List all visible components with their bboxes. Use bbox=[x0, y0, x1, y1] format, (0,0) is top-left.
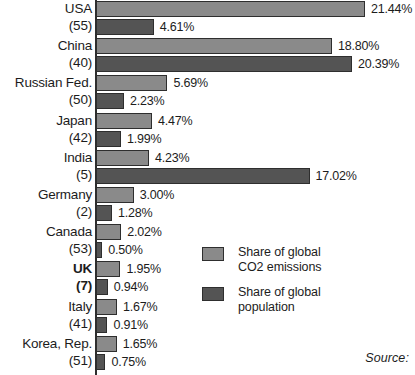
bar-co2-emissions bbox=[96, 75, 167, 91]
legend-label-line2: CO2 emissions bbox=[238, 260, 321, 275]
row-label: Russian Fed.(50) bbox=[0, 74, 92, 111]
country-name: UK bbox=[0, 260, 92, 277]
bar-value-population: 4.61% bbox=[160, 19, 194, 35]
legend-swatch-population bbox=[202, 287, 224, 301]
bar-value-co2: 1.67% bbox=[123, 299, 157, 315]
bar-value-co2: 2.02% bbox=[127, 224, 161, 240]
bar-population bbox=[96, 131, 121, 147]
legend-swatch-co2 bbox=[202, 247, 224, 261]
bar-population bbox=[96, 93, 124, 109]
legend-label: Share of globalpopulation bbox=[238, 285, 321, 315]
bar-population bbox=[96, 242, 102, 258]
legend-item: Share of globalpopulation bbox=[202, 285, 382, 325]
bar-population bbox=[96, 19, 154, 35]
chart-row: China(40)18.80%20.39% bbox=[0, 37, 415, 74]
legend-label: Share of globalCO2 emissions bbox=[238, 245, 321, 275]
bar-co2-emissions bbox=[96, 299, 117, 315]
bar-value-co2: 4.47% bbox=[158, 113, 192, 129]
bar-co2-emissions bbox=[96, 336, 117, 352]
bar-value-population: 17.02% bbox=[316, 168, 357, 184]
bar-co2-emissions bbox=[96, 150, 149, 166]
row-label: Germany(2) bbox=[0, 186, 92, 223]
country-rank: (55) bbox=[0, 17, 92, 34]
bar-value-population: 1.28% bbox=[118, 205, 152, 221]
legend-label-line1: Share of global bbox=[238, 245, 321, 260]
chart-row: India(5)4.23%17.02% bbox=[0, 149, 415, 186]
row-bars: 4.47%1.99% bbox=[96, 112, 415, 149]
bar-value-co2: 5.69% bbox=[173, 75, 207, 91]
country-rank: (41) bbox=[0, 315, 92, 332]
country-rank: (5) bbox=[0, 166, 92, 183]
country-name: Italy bbox=[0, 298, 92, 315]
bar-co2-emissions bbox=[96, 113, 152, 129]
bar-co2-emissions bbox=[96, 1, 365, 17]
row-bars: 18.80%20.39% bbox=[96, 37, 415, 74]
bar-value-population: 1.99% bbox=[127, 131, 161, 147]
bar-value-co2: 18.80% bbox=[338, 38, 379, 54]
row-label: UK(7) bbox=[0, 260, 92, 297]
chart-row: Korea, Rep.(51)1.65%0.75% bbox=[0, 335, 415, 372]
country-rank: (42) bbox=[0, 129, 92, 146]
bar-population bbox=[96, 354, 105, 370]
bar-value-co2: 4.23% bbox=[155, 150, 189, 166]
row-label: Korea, Rep.(51) bbox=[0, 335, 92, 372]
row-label: Japan(42) bbox=[0, 112, 92, 149]
row-label: China(40) bbox=[0, 37, 92, 74]
country-rank: (50) bbox=[0, 91, 92, 108]
chart-row: Germany(2)3.00%1.28% bbox=[0, 186, 415, 223]
bar-value-co2: 1.65% bbox=[123, 336, 157, 352]
bar-value-population: 0.94% bbox=[114, 279, 148, 295]
legend-label-line2: population bbox=[238, 300, 321, 315]
country-name: Russian Fed. bbox=[0, 74, 92, 91]
bar-co2-emissions bbox=[96, 224, 121, 240]
country-name: Germany bbox=[0, 186, 92, 203]
bar-value-population: 0.50% bbox=[108, 242, 142, 258]
country-name: Canada bbox=[0, 223, 92, 240]
row-bars: 4.23%17.02% bbox=[96, 149, 415, 186]
row-label: India(5) bbox=[0, 149, 92, 186]
legend-label-line1: Share of global bbox=[238, 285, 321, 300]
country-rank: (51) bbox=[0, 352, 92, 369]
country-rank: (2) bbox=[0, 203, 92, 220]
chart-legend: Share of globalCO2 emissionsShare of glo… bbox=[202, 245, 382, 325]
country-name: USA bbox=[0, 0, 92, 17]
row-bars: 21.44%4.61% bbox=[96, 0, 415, 37]
row-bars: 3.00%1.28% bbox=[96, 186, 415, 223]
bar-value-co2: 1.95% bbox=[126, 261, 160, 277]
country-name: India bbox=[0, 149, 92, 166]
source-note: Source: bbox=[365, 351, 409, 365]
country-name: Korea, Rep. bbox=[0, 335, 92, 352]
bar-value-population: 0.75% bbox=[111, 354, 145, 370]
bar-value-co2: 3.00% bbox=[140, 187, 174, 203]
country-name: China bbox=[0, 37, 92, 54]
row-label: Italy(41) bbox=[0, 298, 92, 335]
bar-population bbox=[96, 279, 108, 295]
bar-co2-emissions bbox=[96, 38, 332, 54]
legend-item: Share of globalCO2 emissions bbox=[202, 245, 382, 285]
row-bars: 5.69%2.23% bbox=[96, 74, 415, 111]
bar-co2-emissions bbox=[96, 261, 120, 277]
bar-co2-emissions bbox=[96, 187, 134, 203]
bar-population bbox=[96, 317, 107, 333]
chart-row: USA(55)21.44%4.61% bbox=[0, 0, 415, 37]
country-rank: (53) bbox=[0, 240, 92, 257]
bar-population bbox=[96, 205, 112, 221]
chart-row: Japan(42)4.47%1.99% bbox=[0, 112, 415, 149]
bar-value-population: 2.23% bbox=[130, 93, 164, 109]
row-label: USA(55) bbox=[0, 0, 92, 37]
bar-population bbox=[96, 56, 352, 72]
co2-population-bar-chart: USA(55)21.44%4.61%China(40)18.80%20.39%R… bbox=[0, 0, 415, 375]
row-label: Canada(53) bbox=[0, 223, 92, 260]
bar-value-co2: 21.44% bbox=[371, 1, 412, 17]
country-rank: (40) bbox=[0, 54, 92, 71]
chart-row: Russian Fed.(50)5.69%2.23% bbox=[0, 74, 415, 111]
country-rank: (7) bbox=[0, 277, 92, 294]
country-name: Japan bbox=[0, 112, 92, 129]
bar-value-population: 0.91% bbox=[113, 317, 147, 333]
bar-population bbox=[96, 168, 310, 184]
bar-value-population: 20.39% bbox=[358, 56, 399, 72]
